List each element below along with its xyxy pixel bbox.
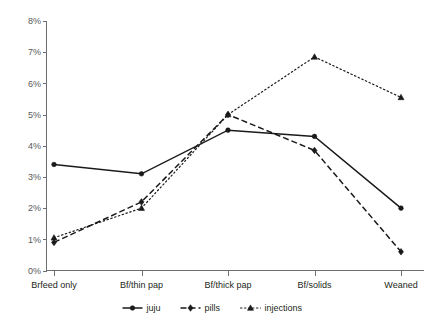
chart-legend: jujupillsinjections	[123, 303, 303, 313]
legend-item-pills[interactable]: pills	[181, 303, 221, 313]
data-point-juju	[139, 172, 144, 177]
data-point-juju	[312, 134, 317, 139]
y-axis-tick-labels: 0%1%2%3%4%5%6%7%8%	[28, 16, 41, 276]
y-axis-tick-label: 8%	[28, 16, 41, 26]
series-line-injections	[54, 57, 401, 238]
y-axis-tick-label: 6%	[28, 79, 41, 89]
legend-item-injections[interactable]: injections	[241, 303, 303, 313]
legend-label-juju: juju	[146, 303, 161, 313]
legend-label-pills: pills	[205, 303, 221, 313]
series-markers	[51, 54, 404, 255]
y-axis-tick-label: 1%	[28, 235, 41, 245]
x-axis-category-label: Bf/solids	[297, 280, 332, 290]
data-point-juju	[399, 206, 404, 211]
legend-label-injections: injections	[265, 303, 303, 313]
x-axis-category-label: Bf/thin pap	[120, 280, 163, 290]
y-axis-tick-label: 5%	[28, 110, 41, 120]
data-point-injections	[51, 235, 57, 240]
legend-marker-circle-icon	[130, 306, 135, 311]
x-axis-category-label: Bf/thick pap	[204, 280, 251, 290]
y-axis-tick-label: 0%	[28, 266, 41, 276]
x-axis-category-labels: Brfeed onlyBf/thin papBf/thick papBf/sol…	[31, 280, 417, 290]
y-axis-tick-label: 7%	[28, 47, 41, 57]
y-axis-tick-label: 4%	[28, 141, 41, 151]
x-axis-category-label: Brfeed only	[31, 280, 77, 290]
chart-canvas: 0%1%2%3%4%5%6%7%8% Brfeed onlyBf/thin pa…	[0, 0, 432, 324]
y-axis-tick-label: 2%	[28, 203, 41, 213]
y-axis-tick-label: 3%	[28, 172, 41, 182]
series-lines	[54, 57, 401, 252]
data-point-injections	[312, 54, 318, 59]
x-axis-category-label: Weaned	[384, 280, 417, 290]
x-axis-tick-marks	[55, 271, 402, 276]
data-point-juju	[52, 162, 57, 167]
line-chart: 0%1%2%3%4%5%6%7%8% Brfeed onlyBf/thin pa…	[0, 0, 432, 324]
legend-marker-diamond-icon	[188, 305, 193, 312]
y-axis-tick-marks	[43, 22, 47, 272]
series-line-juju	[54, 130, 401, 208]
data-point-juju	[226, 128, 231, 133]
series-line-pills	[54, 115, 401, 252]
legend-item-juju[interactable]: juju	[123, 303, 161, 313]
